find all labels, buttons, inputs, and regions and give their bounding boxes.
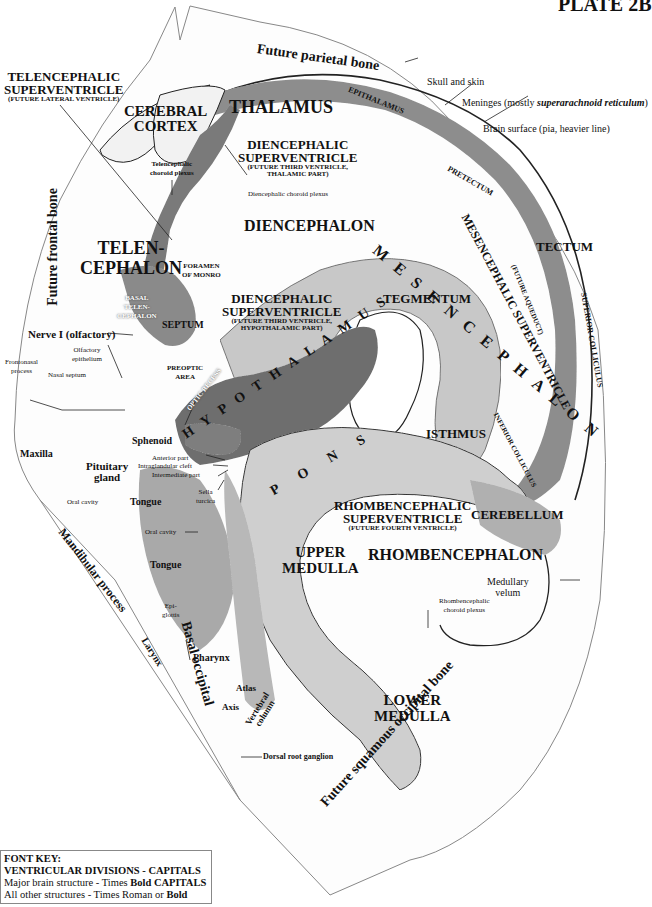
label-epiglottis: Epi- glottis (162, 602, 180, 620)
label-cerebellum: CEREBELLUM (471, 508, 563, 521)
label-rhombencephalic-choroid-plexus: Rhombencephalic choroid plexus (439, 597, 490, 615)
label-upper-medulla: UPPER MEDULLA (282, 544, 359, 576)
label-atlas: Atlas (236, 684, 256, 693)
label-isthmus: ISTHMUS (426, 427, 486, 440)
label-anterior-part: Anterior part (152, 455, 188, 462)
label-dorsal-root-ganglion: Dorsal root ganglion (263, 753, 333, 761)
label-foramen-of-monro: FORAMEN OF MONRO (182, 262, 221, 280)
label-septum: SEPTUM (162, 320, 204, 330)
label-olfactory-epithelium: Olfactory epithelium (72, 346, 102, 364)
label-lower-medulla: LOWER MEDULLA (374, 692, 451, 724)
label-oral-cavity-upper: Oral cavity (67, 499, 98, 506)
font-key-title: FONT KEY: (4, 853, 208, 865)
label-basal-telencephalon: BASAL TELEN- CEPHALON (116, 294, 158, 321)
label-diencephalic-superventricle-hypothalamic: DIENCEPHALIC SUPERVENTRICLE (FUTURE THIR… (222, 292, 341, 332)
label-nasal-septum: Nasal septum (48, 372, 86, 379)
label-sella-turcica: Sella turcica (196, 488, 215, 506)
label-sphenoid: Sphenoid (132, 436, 172, 446)
label-intraglandular-cleft: Intraglandular cleft (138, 463, 192, 470)
label-tongue-upper: Tongue (130, 497, 161, 507)
label-skull-and-skin: Skull and skin (427, 77, 484, 87)
label-cerebral-cortex: CEREBRAL CORTEX (124, 104, 207, 134)
label-frontonasal-process: Frontonasal process (5, 358, 38, 376)
label-telencephalic-superventricle: TELENCEPHALIC SUPERVENTRICLE (FUTURE LAT… (4, 70, 123, 103)
label-diencephalic-superventricle-thalamic: DIENCEPHALIC SUPERVENTRICLE (FUTURE THIR… (238, 138, 357, 178)
label-future-frontal-bone: Future frontal bone (46, 172, 60, 322)
label-maxilla: Maxilla (20, 449, 53, 459)
label-pharynx: Pharynx (193, 653, 230, 663)
font-key-line-other: All other structures - Times Roman or Bo… (4, 889, 208, 901)
label-tegmentum: TEGMENTUM (383, 292, 471, 305)
label-preoptic-area: PREOPTIC AREA (167, 364, 203, 382)
label-meninges: Meninges (mostly superarachnoid reticulu… (462, 97, 648, 109)
label-telencephalic-choroid-plexus: Telencephalic choroid plexus (150, 160, 194, 178)
label-intermediate-part: Intermediate part (152, 472, 200, 479)
font-key-line-major: Major brain structure - Times Bold CAPIT… (4, 877, 208, 889)
label-tectum: TECTUM (536, 240, 593, 253)
label-nerve-i-olfactory: Nerve I (olfactory) (28, 329, 115, 340)
label-tongue-lower: Tongue (150, 560, 181, 570)
label-oral-cavity-lower: Oral cavity (145, 529, 176, 536)
label-medullary-velum: Medullary velum (487, 576, 529, 598)
label-pituitary-gland: Pituitary gland (86, 461, 128, 483)
label-diencephalic-choroid-plexus: Diencephalic choroid plexus (248, 191, 328, 198)
font-key-legend: FONT KEY: VENTRICULAR DIVISIONS - CAPITA… (0, 850, 212, 904)
font-key-line-ventricular: VENTRICULAR DIVISIONS - CAPITALS (4, 865, 208, 877)
label-rhombencephalon: RHOMBENCEPHALON (368, 547, 543, 563)
label-axis: Axis (222, 703, 239, 712)
plate-title: PLATE 2B (558, 0, 652, 14)
label-diencephalon: DIENCEPHALON (244, 218, 375, 234)
label-rhombencephalic-superventricle: RHOMBENCEPHALIC SUPERVENTRICLE (FUTURE F… (334, 499, 471, 532)
label-thalamus: THALAMUS (229, 98, 333, 116)
label-telencephalon: TELEN- CEPHALON (80, 238, 182, 278)
label-brain-surface: Brain surface (pia, heavier line) (483, 124, 610, 134)
